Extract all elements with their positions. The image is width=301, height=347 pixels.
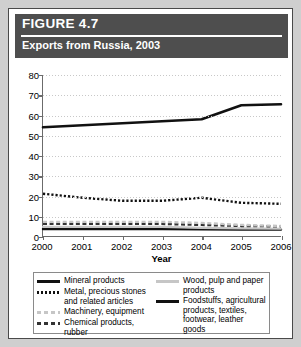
legend-column-left: Mineral productsMetal, precious stones a… (37, 276, 155, 338)
chart-plot-wrapper: 01020304050607080 2000200120022003200420… (15, 61, 288, 261)
legend-swatch-icon (37, 311, 60, 314)
y-axis-tick-30 (39, 176, 43, 177)
x-axis-tick-2006 (282, 236, 283, 240)
legend-swatch-icon (37, 322, 60, 325)
x-axis-label-2005: 2005 (231, 241, 252, 252)
y-axis-tick-20 (39, 197, 43, 198)
gridline-80 (43, 75, 281, 76)
legend-item: Metal, precious stones and related artic… (37, 287, 155, 306)
y-axis-label-10: 10 (28, 211, 39, 222)
figure-number-label: FIGURE 4.7 (22, 16, 99, 31)
y-axis-tick-50 (39, 136, 43, 137)
legend-item-label: Chemical products, rubber (64, 318, 155, 337)
gridline-50 (43, 136, 281, 137)
plot-area (42, 75, 281, 237)
legend-item-label: Mineral products (64, 276, 155, 286)
x-axis-tick-2003 (163, 236, 164, 240)
legend-column-right: Wood, pulp and paper productsFoodstuffs,… (156, 276, 268, 336)
chart-legend: Mineral productsMetal, precious stones a… (33, 272, 270, 334)
legend-item: Chemical products, rubber (37, 318, 155, 337)
gridline-10 (43, 217, 281, 218)
x-axis-label-2000: 2000 (31, 241, 52, 252)
y-axis-tick-10 (39, 217, 43, 218)
legend-swatch-icon (37, 280, 60, 283)
series-line-metal (43, 194, 281, 204)
figure-subtitle: Exports from Russia, 2003 (22, 39, 160, 51)
gridline-70 (43, 95, 281, 96)
legend-item: Foodstuffs, agricultural products, texti… (156, 296, 268, 334)
y-axis-tick-80 (39, 75, 43, 76)
x-axis-tick-2005 (242, 236, 243, 240)
x-axis-label-2004: 2004 (191, 241, 212, 252)
legend-swatch-icon (37, 291, 60, 294)
x-axis-tick-2000 (43, 236, 44, 240)
gridline-30 (43, 176, 281, 177)
x-axis-label-2006: 2006 (270, 241, 291, 252)
legend-item-label: Wood, pulp and paper products (183, 276, 268, 295)
y-axis-label-70: 70 (28, 90, 39, 101)
legend-item: Mineral products (37, 276, 155, 286)
x-axis-tick-2004 (202, 236, 203, 240)
figure-header: FIGURE 4.7 Exports from Russia, 2003 (15, 14, 288, 58)
legend-swatch-icon (156, 300, 179, 303)
x-axis-label-2003: 2003 (151, 241, 172, 252)
legend-item: Wood, pulp and paper products (156, 276, 268, 295)
legend-item-label: Metal, precious stones and related artic… (64, 287, 155, 306)
gridline-20 (43, 197, 281, 198)
legend-swatch-icon (156, 280, 179, 283)
x-axis-label-2002: 2002 (111, 241, 132, 252)
y-axis-tick-60 (39, 116, 43, 117)
y-axis-tick-70 (39, 95, 43, 96)
y-axis-label-40: 40 (28, 151, 39, 162)
x-axis-tick-2002 (123, 236, 124, 240)
gridline-40 (43, 156, 281, 157)
gridline-60 (43, 116, 281, 117)
x-axis-title: Year (42, 253, 281, 264)
y-axis-label-60: 60 (28, 110, 39, 121)
x-axis-label-2001: 2001 (71, 241, 92, 252)
header-divider (21, 35, 282, 37)
y-axis-label-80: 80 (28, 70, 39, 81)
legend-item-label: Machinery, equipment (64, 307, 155, 317)
legend-item-label: Foodstuffs, agricultural products, texti… (183, 296, 268, 334)
y-axis-tick-40 (39, 156, 43, 157)
y-axis-label-30: 30 (28, 171, 39, 182)
y-axis-label-50: 50 (28, 130, 39, 141)
y-axis-tick-labels: 01020304050607080 (15, 61, 39, 261)
figure-container: FIGURE 4.7 Exports from Russia, 2003 010… (8, 8, 293, 339)
x-axis-tick-2001 (83, 236, 84, 240)
y-axis-label-20: 20 (28, 191, 39, 202)
legend-item: Machinery, equipment (37, 307, 155, 317)
